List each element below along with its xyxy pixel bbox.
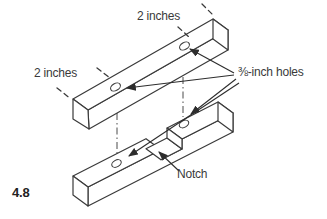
figure-4-8: 2 inches 2 inches ⅜-inch holes Notch 4.8 (0, 0, 327, 219)
left-dim-extension-to-hole (97, 68, 110, 78)
top-dimension-label: 2 inches (137, 10, 180, 23)
diagram-canvas (0, 0, 327, 219)
holes-label: ⅜-inch holes (238, 66, 304, 79)
top-dim-extension-to-end (202, 4, 214, 16)
left-dim-extension-to-end (57, 88, 71, 99)
left-dimension-label: 2 inches (34, 67, 77, 80)
top-bar-top-face (73, 19, 228, 110)
figure-number: 4.8 (12, 186, 29, 200)
notch-label: Notch (177, 168, 207, 181)
